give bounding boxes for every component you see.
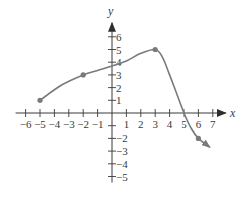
y-tick-label: −5 <box>116 171 128 183</box>
data-point <box>81 72 86 77</box>
x-tick-label: −1 <box>92 118 104 130</box>
y-tick-label: 3 <box>116 69 122 81</box>
x-tick-label: −3 <box>63 118 75 130</box>
data-point <box>37 98 42 103</box>
x-tick-label: 1 <box>124 118 130 130</box>
y-tick-label: −4 <box>116 158 128 170</box>
x-tick-label: −2 <box>77 118 89 130</box>
data-point <box>153 47 158 52</box>
function-graph: −6−5−4−3−2−11234567 654321−2−3−4−5 x y <box>0 0 248 197</box>
x-tick-label: −4 <box>49 118 61 130</box>
y-tick-label: −2 <box>116 132 128 144</box>
x-tick-label: 7 <box>210 118 216 130</box>
y-tick-label: −3 <box>116 145 128 157</box>
x-tick-label: −6 <box>20 118 32 130</box>
data-point <box>196 136 201 141</box>
y-axis-label: y <box>107 4 114 18</box>
y-axis-ticks: 654321−2−3−4−5 <box>108 31 128 183</box>
x-tick-label: 6 <box>196 118 202 130</box>
y-tick-label: 5 <box>116 44 122 56</box>
y-tick-label: 2 <box>116 82 122 94</box>
y-tick-label: 6 <box>116 31 122 43</box>
x-axis-label: x <box>229 106 236 120</box>
y-tick-label: 1 <box>116 94 122 106</box>
x-tick-label: 3 <box>152 118 158 130</box>
x-tick-label: 2 <box>138 118 144 130</box>
x-tick-label: 4 <box>167 118 173 130</box>
x-tick-label: −5 <box>34 118 46 130</box>
